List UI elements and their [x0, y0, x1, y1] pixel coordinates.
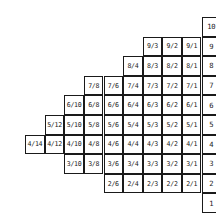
row-label-cell: 3 [202, 154, 217, 174]
fraction-cell: 4/3 [143, 135, 163, 155]
row-label-cell: 4 [202, 135, 217, 155]
fraction-cell: 4/10 [64, 135, 84, 155]
row-label-cell: 9 [202, 37, 217, 57]
fraction-cell: 9/3 [143, 37, 163, 57]
fraction-cell: 6/3 [143, 95, 163, 115]
fraction-cell: 4/4 [123, 135, 143, 155]
fraction-cell: 6/4 [123, 95, 143, 115]
fraction-cell: 7/6 [104, 76, 124, 96]
fraction-cell: 9/1 [182, 37, 202, 57]
row-label-cell: 8 [202, 56, 217, 76]
fraction-cell: 4/2 [162, 135, 182, 155]
fraction-cell: 2/1 [182, 174, 202, 194]
fraction-cell: 3/3 [143, 154, 163, 174]
fraction-cell: 5/4 [123, 115, 143, 135]
fraction-cell: 5/6 [104, 115, 124, 135]
fraction-cell: 7/1 [182, 76, 202, 96]
fraction-cell: 5/1 [182, 115, 202, 135]
fraction-cell: 2/3 [143, 174, 163, 194]
row-label-cell: 7 [202, 76, 217, 96]
fraction-cell: 5/8 [84, 115, 104, 135]
fraction-cell: 5/10 [64, 115, 84, 135]
fraction-cell: 4/1 [182, 135, 202, 155]
fraction-cell: 8/2 [162, 56, 182, 76]
fraction-cell: 8/1 [182, 56, 202, 76]
fraction-cell: 6/2 [162, 95, 182, 115]
row-label-cell: 1 [202, 193, 217, 213]
fraction-cell: 6/10 [64, 95, 84, 115]
row-label-cell: 2 [202, 174, 217, 194]
fraction-cell: 3/1 [182, 154, 202, 174]
row-label-cell: 5 [202, 115, 217, 135]
fraction-cell: 3/4 [123, 154, 143, 174]
fraction-cell: 6/8 [84, 95, 104, 115]
fraction-cell: 6/6 [104, 95, 124, 115]
fraction-cell: 7/4 [123, 76, 143, 96]
fraction-cell: 4/8 [84, 135, 104, 155]
fraction-cell: 8/3 [143, 56, 163, 76]
fraction-cell: 8/4 [123, 56, 143, 76]
fraction-cell: 7/2 [162, 76, 182, 96]
fraction-cell: 3/10 [64, 154, 84, 174]
fraction-cell: 3/8 [84, 154, 104, 174]
fraction-cell: 2/4 [123, 174, 143, 194]
row-label-cell: 10 [202, 17, 217, 37]
fraction-cell: 2/6 [104, 174, 124, 194]
fraction-cell: 7/3 [143, 76, 163, 96]
fraction-cell: 3/2 [162, 154, 182, 174]
row-label-cell: 6 [202, 95, 217, 115]
fraction-cell: 6/1 [182, 95, 202, 115]
fraction-cell: 7/8 [84, 76, 104, 96]
fraction-cell: 9/2 [162, 37, 182, 57]
fraction-staircase-grid: 1099/39/29/188/48/38/28/177/87/67/47/37/… [0, 0, 216, 222]
fraction-cell: 2/2 [162, 174, 182, 194]
fraction-cell: 4/6 [104, 135, 124, 155]
fraction-cell: 5/2 [162, 115, 182, 135]
fraction-cell: 5/3 [143, 115, 163, 135]
fraction-cell: 5/12 [45, 115, 65, 135]
fraction-cell: 4/14 [25, 135, 45, 155]
fraction-cell: 3/6 [104, 154, 124, 174]
fraction-cell: 4/12 [45, 135, 65, 155]
